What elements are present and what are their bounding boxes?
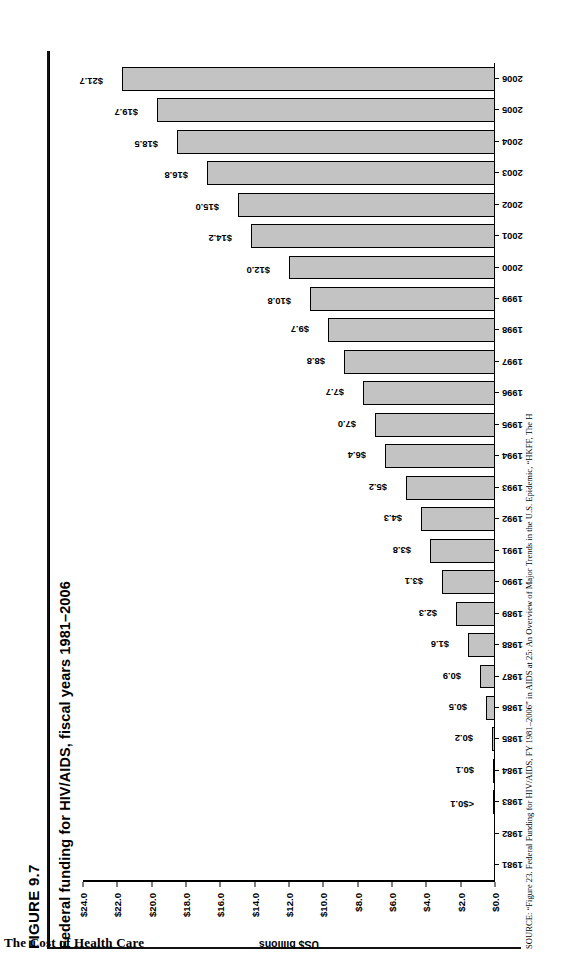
bar-value-label: $15.0 — [195, 201, 218, 212]
y-axis-tick-label: $8.0 — [352, 893, 363, 912]
bar — [251, 224, 495, 248]
bar-value-label: $8.8 — [307, 356, 325, 367]
bar-value-label: $21.7 — [80, 75, 103, 86]
bar — [406, 475, 495, 499]
y-axis-title: US$ billions — [259, 939, 319, 951]
x-axis-tick-mark — [495, 518, 499, 519]
x-axis-tick-label: 1993 — [502, 482, 523, 492]
y-axis-tick-label: $0.0 — [490, 893, 501, 912]
x-axis-tick-label: 2006 — [502, 73, 523, 83]
x-axis-tick-label: 1992 — [502, 514, 523, 524]
figure-source-note: SOURCE: “Figure 23. Federal Funding for … — [525, 9, 535, 949]
x-axis-tick-label: 1998 — [502, 325, 523, 335]
y-axis-tick-mark — [117, 882, 118, 887]
bar-group: $8.81997 — [83, 346, 495, 377]
x-axis-tick-mark — [495, 769, 499, 770]
bar-group: $19.72005 — [83, 94, 495, 125]
bar-value-label: <$0.1 — [450, 799, 474, 810]
x-axis-tick-mark — [495, 455, 499, 456]
bar-value-label: $1.6 — [430, 639, 448, 650]
figure-rotated-container: FIGURE 9.7 Federal funding for HIV/AIDS,… — [21, 9, 541, 949]
bar-group: $7.01995 — [83, 409, 495, 440]
x-axis-tick-label: 1986 — [502, 702, 523, 712]
bar-value-label: $0.1 — [455, 765, 473, 776]
x-axis-tick-mark — [495, 549, 499, 550]
x-axis-tick-mark — [495, 172, 499, 173]
bar-group: $0.11984 — [83, 755, 495, 786]
bar-group: $0.91987 — [83, 660, 495, 691]
bar — [430, 538, 495, 562]
bar — [442, 570, 495, 594]
bar-group: 1982 — [83, 818, 495, 849]
bar-value-label: $9.7 — [291, 324, 309, 335]
bar — [344, 349, 495, 373]
bar-value-label: $19.7 — [114, 106, 137, 117]
y-axis-tick-mark — [495, 882, 496, 887]
bar-value-label: $10.8 — [267, 295, 290, 306]
x-axis-tick-label: 1996 — [502, 388, 523, 398]
bar-value-label: $18.5 — [135, 138, 158, 149]
x-axis-tick-mark — [495, 392, 499, 393]
bar-group: $12.02000 — [83, 251, 495, 282]
bar-group: $3.81991 — [83, 534, 495, 565]
x-axis-tick-label: 1990 — [502, 577, 523, 587]
x-axis-tick-mark — [495, 706, 499, 707]
bar-group: $0.21985 — [83, 723, 495, 754]
bar-group: $9.71998 — [83, 314, 495, 345]
y-axis-tick-mark — [323, 882, 324, 887]
x-axis-tick-mark — [495, 801, 499, 802]
x-axis-tick-label: 1994 — [502, 451, 523, 461]
y-axis-tick-mark — [254, 882, 255, 887]
y-axis-tick-labels: $0.0$2.0$4.0$6.0$8.0$10.0$12.0$14.0$16.0… — [83, 887, 495, 915]
bar-value-label: $6.4 — [348, 450, 366, 461]
y-axis-tick-label: $2.0 — [455, 893, 466, 912]
bar-group: $3.11990 — [83, 566, 495, 597]
y-axis-tick-label: $16.0 — [215, 893, 226, 917]
x-axis-tick-label: 2003 — [502, 168, 523, 178]
bar-value-label: $3.8 — [393, 544, 411, 555]
y-axis-tick-mark — [83, 882, 84, 887]
x-axis-tick-label: 1988 — [502, 640, 523, 650]
x-axis-tick-mark — [495, 140, 499, 141]
x-axis-tick-mark — [495, 297, 499, 298]
bar-group: $18.52004 — [83, 125, 495, 156]
bar-group: $14.22001 — [83, 220, 495, 251]
bar — [486, 696, 495, 720]
bar-group: $21.72006 — [83, 63, 495, 94]
bar — [310, 287, 495, 311]
x-axis-tick-mark — [495, 644, 499, 645]
bar-value-label: $16.8 — [164, 169, 187, 180]
bar-group: $0.51986 — [83, 692, 495, 723]
bar — [328, 318, 495, 342]
x-axis-tick-mark — [495, 738, 499, 739]
y-axis-tick-label: $18.0 — [181, 893, 192, 917]
bar-value-label: $14.2 — [209, 232, 232, 243]
x-axis-tick-label: 1987 — [502, 671, 523, 681]
x-axis-tick-mark — [495, 109, 499, 110]
bar — [456, 601, 495, 625]
bar — [421, 507, 495, 531]
x-axis-tick-label: 1982 — [502, 828, 523, 838]
bar-group: $2.31989 — [83, 597, 495, 628]
bar-value-label: $0.9 — [442, 670, 460, 681]
x-axis-tick-mark — [495, 360, 499, 361]
bar-value-label: $12.0 — [247, 264, 270, 275]
bar — [157, 98, 495, 122]
x-axis-tick-label: 2004 — [502, 136, 523, 146]
x-axis-tick-mark — [495, 235, 499, 236]
x-axis-tick-mark — [495, 612, 499, 613]
y-axis-tick-label: $24.0 — [78, 893, 89, 917]
bar-group: $6.41994 — [83, 440, 495, 471]
y-axis-tick-mark — [186, 882, 187, 887]
y-axis-tick-label: $6.0 — [387, 893, 398, 912]
bar — [375, 412, 495, 436]
x-axis-tick-label: 1984 — [502, 765, 523, 775]
x-axis-tick-label: 1989 — [502, 608, 523, 618]
bar-value-label: $7.0 — [338, 418, 356, 429]
x-axis-tick-label: 1997 — [502, 356, 523, 366]
x-axis-tick-mark — [495, 581, 499, 582]
bar-group: $16.82003 — [83, 157, 495, 188]
x-axis-tick-label: 1983 — [502, 797, 523, 807]
bar-series: 19811982<$0.11983$0.11984$0.21985$0.5198… — [83, 63, 495, 881]
y-axis-tick-mark — [357, 882, 358, 887]
